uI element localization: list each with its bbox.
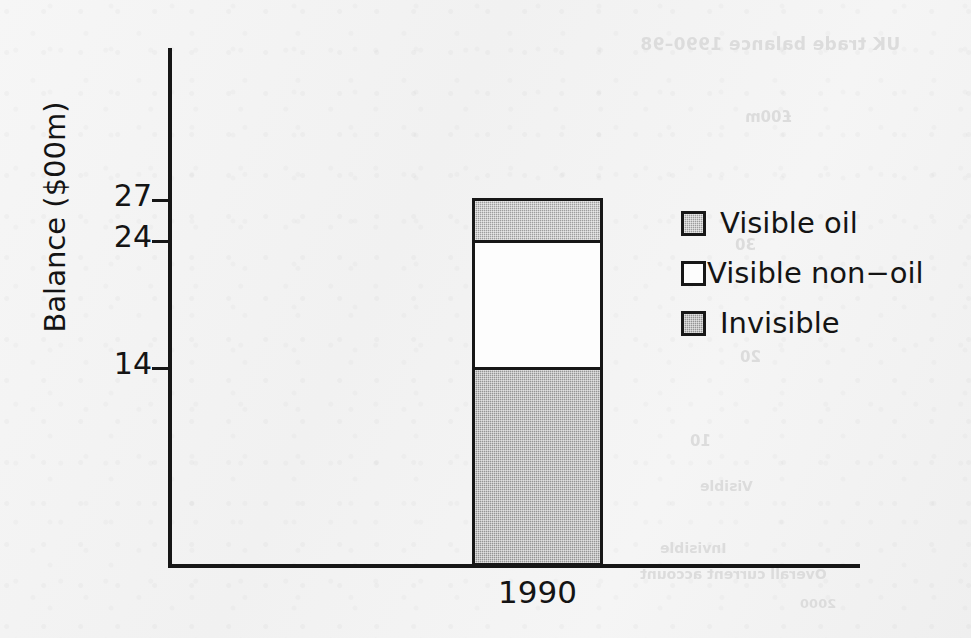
legend: Visible oil Visible non−oil Invisible bbox=[681, 198, 924, 348]
x-axis-category-label-1990: 1990 bbox=[472, 574, 603, 610]
legend-item-visible-oil[interactable]: Visible oil bbox=[681, 198, 924, 248]
y-tick-mark-27 bbox=[152, 199, 170, 202]
legend-item-invisible[interactable]: Invisible bbox=[681, 298, 924, 348]
y-tick-mark-14 bbox=[152, 367, 170, 370]
legend-label-visible-non-oil: Visible non−oil bbox=[707, 259, 924, 288]
bleed-through-tick-b: 20 bbox=[740, 348, 761, 366]
legend-swatch-visible-non-oil bbox=[681, 261, 706, 286]
y-tick-label-27: 27 bbox=[114, 178, 152, 213]
y-tick-label-24: 24 bbox=[114, 219, 152, 254]
legend-label-visible-oil: Visible oil bbox=[720, 209, 858, 238]
bar-segment-invisible[interactable] bbox=[472, 367, 603, 566]
bleed-through-legend-c: Overall current account bbox=[640, 566, 827, 582]
y-axis-line bbox=[168, 48, 172, 568]
bleed-through-tick-c: 10 bbox=[690, 432, 711, 450]
bleed-through-axis-label: £00m bbox=[745, 108, 792, 126]
bleed-through-legend-b: Invisible bbox=[660, 540, 727, 556]
legend-swatch-visible-oil bbox=[681, 211, 706, 236]
bleed-through-legend-a: Visible bbox=[700, 478, 753, 494]
y-axis-title: Balance ($00m) bbox=[38, 72, 72, 362]
legend-swatch-invisible bbox=[681, 311, 706, 336]
legend-item-visible-non-oil[interactable]: Visible non−oil bbox=[681, 248, 924, 298]
bleed-through-year: 2000 bbox=[800, 596, 836, 611]
y-tick-mark-24 bbox=[152, 240, 170, 243]
bar-segment-visible-oil[interactable] bbox=[472, 198, 603, 243]
chart-canvas: UK trade balance 1990–98 £00m 30 20 10 V… bbox=[0, 0, 971, 638]
bar-segment-visible-non-oil[interactable] bbox=[472, 240, 603, 370]
bleed-through-title: UK trade balance 1990–98 bbox=[640, 34, 900, 54]
legend-label-invisible: Invisible bbox=[720, 309, 840, 338]
y-tick-label-14: 14 bbox=[114, 346, 152, 381]
